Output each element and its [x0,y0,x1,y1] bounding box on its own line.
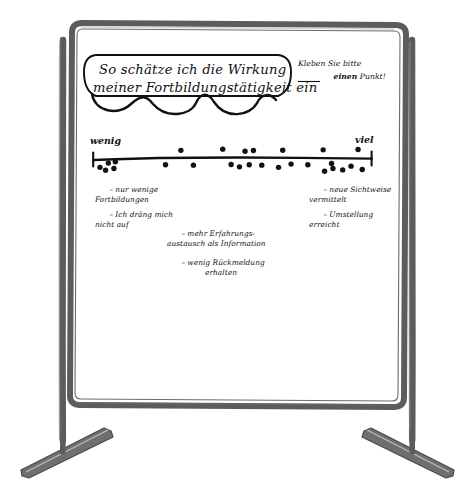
annotation-middle-0: –mehr Erfahrungs- austausch als Informat… [160,229,272,248]
svg-text:–mehr Erfahrungs-: –mehr Erfahrungs- [160,229,272,238]
instruction-emphasis: einen [334,72,358,81]
participant-dot [97,165,102,170]
participant-dot [106,160,111,165]
annotation-right-0-bullet: – [324,185,328,194]
participant-dot [251,148,256,153]
participant-dot [103,168,108,173]
participant-dot [163,162,168,167]
svg-text:–Ich dräng mich: –Ich dräng mich [88,210,190,219]
participant-dot [340,167,345,172]
participant-dot [355,147,360,152]
title-line-2: meiner Fortbildungstätigkeit ein [93,80,317,95]
participant-dot [360,167,365,172]
easel-right-foot [362,428,454,478]
annotation-left-1-line2: nicht auf [95,220,130,229]
annotation-middle-1-bullet: – [182,258,186,267]
participant-dot [242,149,247,154]
annotation-middle-0-bullet: – [182,229,186,238]
participant-dot [247,162,252,167]
annotation-middle-0-line2: austausch als Information [167,239,266,248]
participant-dot [329,161,334,166]
svg-text:–wenig Rückmeldung: –wenig Rückmeldung [160,258,282,267]
participant-dot [280,147,285,152]
participant-dot [320,147,325,152]
participant-dot [305,162,310,167]
svg-text:–neue Sichtweise: –neue Sichtweise [302,185,408,194]
participant-dot [348,163,353,168]
annotation-middle-1-line2: erhalten [205,268,237,277]
participant-dot [228,162,233,167]
participant-dot [259,162,264,167]
easel-right-post [409,40,413,440]
annotation-middle-0-line1: mehr Erfahrungs- [187,229,255,238]
annotation-left-0-bullet: – [110,185,114,194]
participant-dot [276,165,281,170]
participant-dot [330,166,335,171]
annotation-right-1-line2: erreicht [309,220,339,229]
participant-dot [178,148,183,153]
instruction-line-2-rest: Punkt! [357,72,386,81]
scale-label-right: viel [355,134,374,145]
easel-left-post [59,40,63,440]
title-line-1: So schätze ich die Wirkung [99,62,286,77]
annotation-right-1-bullet: – [324,210,328,219]
annotation-left-0-line2: Fortbildungen [94,195,149,204]
participant-dot [220,146,225,151]
participant-dot [111,166,116,171]
svg-text:–nur wenige: –nur wenige [88,185,175,194]
participant-dot [113,159,118,164]
annotation-right-0-line2: vermittelt [309,195,347,204]
annotation-left-1-bullet: – [110,210,114,219]
annotation-left-0-line1: nur wenige [115,185,158,194]
annotation-middle-1-line1: wenig Rückmeldung [187,258,265,267]
participant-dot [322,169,327,174]
annotation-right-0-line1: neue Sichtweise [329,185,391,194]
easel-left-foot [21,428,113,478]
annotation-right-1-line1: Umstellung [329,210,373,219]
participant-dot [191,162,196,167]
participant-dot [288,161,293,166]
scale-label-left: wenig [90,135,121,146]
illustration-canvas: So schätze ich die Wirkung meiner Fortbi… [0,0,475,498]
annotation-left-1-line1: Ich dräng mich [114,210,173,219]
svg-text:–Umstellung: –Umstellung [302,210,390,219]
participant-dot [237,164,242,169]
